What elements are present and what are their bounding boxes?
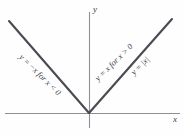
x-axis-label: x [173, 115, 177, 124]
y-axis-label: y [93, 5, 97, 14]
absolute-value-graph-figure: y x y = −x for x < 0 y = x for x > 0 y =… [0, 0, 183, 137]
right-branch-line [89, 19, 172, 113]
left-branch-line [9, 21, 89, 113]
